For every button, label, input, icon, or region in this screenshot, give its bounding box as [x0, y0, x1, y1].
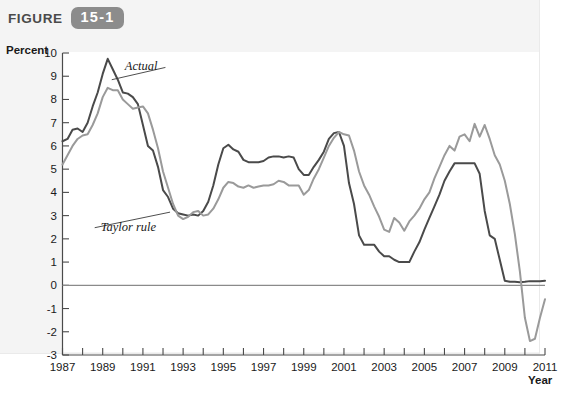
y-tick-label: 5: [51, 163, 57, 175]
annotation-group: ActualTaylor rule: [95, 59, 170, 233]
x-tick-label: 2005: [412, 361, 438, 373]
x-tick-label: 1999: [291, 361, 317, 373]
x-tick-label: 2001: [331, 361, 357, 373]
x-tick-label: 1993: [170, 361, 196, 373]
y-tick-label: -3: [47, 349, 57, 361]
y-tick-label: -2: [47, 326, 57, 338]
x-tick-label: 2009: [492, 361, 518, 373]
x-axis-group: 1987198919911993199519971999200120032005…: [50, 348, 558, 373]
chart-svg: 109876543210-1-2-3 198719891991199319951…: [0, 0, 575, 395]
x-tick-label: 2003: [371, 361, 397, 373]
y-axis-group: 109876543210-1-2-3: [44, 47, 69, 361]
x-tick-label: 1989: [90, 361, 116, 373]
y-tick-label: -1: [47, 303, 57, 315]
y-tick-label: 1: [51, 256, 57, 268]
series-group: [63, 59, 546, 341]
x-tick-label: 1997: [251, 361, 277, 373]
y-tick-label: 6: [51, 140, 57, 152]
y-tick-label: 10: [44, 47, 57, 59]
x-tick-group: 1987198919911993199519971999200120032005…: [50, 348, 558, 373]
y-tick-label: 4: [51, 186, 58, 198]
y-tick-label: 9: [51, 70, 57, 82]
series-line-taylor-rule: [63, 88, 546, 341]
annotation-label: Taylor rule: [101, 220, 157, 234]
x-tick-label: 1991: [130, 361, 156, 373]
y-tick-label: 8: [51, 93, 57, 105]
annotation-label: Actual: [124, 59, 158, 73]
x-tick-label: 2011: [533, 361, 558, 373]
x-tick-label: 1995: [211, 361, 237, 373]
y-tick-label: 7: [51, 117, 57, 129]
y-tick-label: 3: [51, 210, 57, 222]
figure-container: FIGURE 15-1 Percent Year 109876543210-1-…: [0, 0, 575, 395]
y-tick-label: 2: [51, 233, 57, 245]
series-line-actual: [63, 59, 546, 282]
x-tick-label: 2007: [452, 361, 478, 373]
y-tick-group: 109876543210-1-2-3: [44, 47, 69, 361]
y-tick-label: 0: [51, 279, 57, 291]
x-tick-label: 1987: [50, 361, 76, 373]
